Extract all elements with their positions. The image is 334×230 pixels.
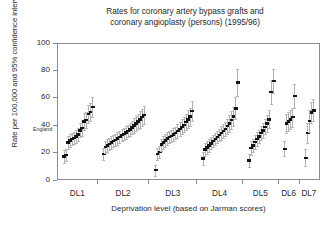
ci-lower-cap [121,141,124,142]
y-tick-label: 80 [41,65,50,74]
ci-lower-cap [224,136,227,137]
ci-lower-cap [260,140,263,141]
ci-lower-cap [308,132,311,133]
ci-lower-cap [285,133,288,134]
ci-upper-cap [91,97,94,98]
ci-lower-cap [158,158,161,159]
ci-lower-cap [106,152,109,153]
x-group-label-dl7: DL7 [301,189,316,198]
ci-lower-cap [306,143,309,144]
ci-lower-cap [232,126,235,127]
ci-lower-cap [127,137,130,138]
ci-upper-cap [191,101,194,102]
ci-lower-cap [172,141,175,142]
england-reference-label: England [33,126,52,132]
ci-lower-cap [210,149,213,150]
y-tick-label: 60 [41,92,50,101]
ci-lower-cap [85,128,88,129]
x-tick-mark [97,180,98,184]
ci-lower-cap [283,156,286,157]
ci-lower-cap [262,138,265,139]
ci-lower-cap [216,143,219,144]
ci-lower-cap [208,152,211,153]
ci-lower-cap [218,141,221,142]
ci-upper-cap [236,69,239,70]
ci-lower-cap [272,93,275,94]
x-group-label-dl2: DL2 [116,189,131,198]
ci-upper-cap [143,106,146,107]
ci-lower-cap [102,160,105,161]
data-point [234,107,238,109]
ci-lower-cap [118,143,121,144]
ci-lower-cap [212,147,215,148]
ci-lower-cap [187,128,190,129]
ci-lower-cap [204,156,207,157]
ci-lower-cap [77,141,80,142]
ci-lower-cap [181,134,184,135]
data-point [236,81,240,83]
data-point [247,159,251,161]
ci-lower-cap [206,154,209,155]
ci-lower-cap [133,133,136,134]
x-group-label-dl3: DL3 [165,189,180,198]
ci-lower-cap [270,104,273,105]
ci-upper-cap [154,165,157,166]
ci-lower-cap [226,134,229,135]
chart-figure: Rates for coronary artery bypass grafts … [0,0,334,230]
ci-lower-cap [131,134,134,135]
ci-lower-cap [268,128,271,129]
ci-upper-cap [304,149,307,150]
ci-lower-cap [310,123,313,124]
ci-lower-cap [69,147,72,148]
ci-lower-cap [287,131,290,132]
ci-lower-cap [81,136,84,137]
ci-lower-cap [75,143,78,144]
ci-lower-cap [179,136,182,137]
ci-lower-cap [87,123,90,124]
data-point [154,169,158,171]
ci-lower-cap [139,128,142,129]
ci-lower-cap [230,129,233,130]
x-group-label-dl4: DL4 [212,189,227,198]
ci-lower-cap [137,129,140,130]
ci-lower-cap [202,165,205,166]
ci-lower-cap [63,163,66,164]
ci-lower-cap [312,121,315,122]
data-point [190,110,194,112]
data-point [272,80,276,82]
ci-upper-cap [268,110,271,111]
x-tick-mark [299,180,300,184]
ci-upper-cap [283,141,286,142]
ci-lower-cap [156,160,159,161]
ci-lower-cap [176,138,179,139]
ci-lower-cap [191,121,194,122]
ci-lower-cap [114,146,117,147]
data-point [201,157,205,159]
ci-lower-cap [168,143,171,144]
ci-lower-cap [141,126,144,127]
ci-lower-cap [83,130,86,131]
data-point [293,95,297,97]
ci-lower-cap [67,149,70,150]
data-point [267,118,271,120]
ci-lower-cap [234,119,237,120]
ci-lower-cap [214,145,217,146]
ci-lower-cap [104,153,107,154]
ci-lower-cap [174,139,177,140]
ci-lower-cap [135,131,138,132]
ci-lower-cap [266,132,269,133]
plot-area [57,43,320,180]
ci-lower-cap [89,121,92,122]
data-point [91,106,95,108]
ci-lower-cap [252,152,255,153]
ci-lower-cap [189,126,192,127]
ci-lower-cap [228,132,231,133]
ci-lower-cap [222,138,225,139]
x-tick-mark [278,180,279,184]
ci-lower-cap [254,149,257,150]
ci-lower-cap [289,129,292,130]
ci-lower-cap [256,146,259,147]
ci-upper-cap [293,84,296,85]
ci-lower-cap [264,134,267,135]
ci-lower-cap [160,151,163,152]
